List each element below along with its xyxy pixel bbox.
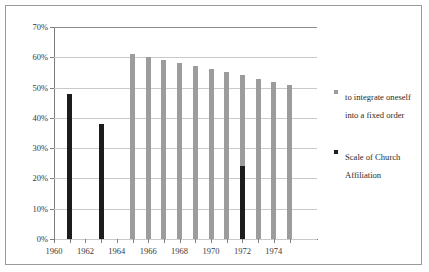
chart-figure: 0%10%20%30%40%50%60%70% 1960196219641966… [5, 5, 422, 265]
bar [146, 57, 151, 239]
legend-swatch-icon [334, 150, 338, 154]
bar [67, 94, 72, 239]
gridline [54, 209, 317, 210]
gridline [54, 27, 317, 28]
legend-entry[interactable]: Scale of Church Affiliation [334, 146, 422, 182]
x-tick-mark [70, 239, 71, 243]
x-axis-label: 1968 [165, 246, 195, 256]
x-tick-mark [227, 239, 228, 243]
x-tick-mark [242, 239, 243, 243]
bar [209, 69, 214, 239]
x-tick-mark [101, 239, 102, 243]
x-tick-mark [180, 239, 181, 243]
bar [161, 60, 166, 239]
bar [224, 72, 229, 239]
bar [130, 54, 135, 239]
bar [193, 66, 198, 239]
bar [256, 79, 261, 240]
bar [240, 166, 245, 239]
x-axis-label: 1970 [196, 246, 226, 256]
x-tick-mark [148, 239, 149, 243]
x-axis-label: 1964 [102, 246, 132, 256]
x-tick-mark [211, 239, 212, 243]
gridline [54, 88, 317, 89]
legend-label: to integrate oneself into a fixed order [345, 92, 411, 120]
gridline [54, 239, 317, 240]
y-axis-label: 20% [8, 174, 48, 182]
legend-entry[interactable]: to integrate oneself into a fixed order [334, 86, 422, 122]
y-axis-label: 50% [8, 84, 48, 92]
bar [99, 124, 104, 239]
x-tick-mark [274, 239, 275, 243]
plot-area [54, 27, 317, 239]
x-tick-mark [164, 239, 165, 243]
x-axis-label: 1972 [227, 246, 257, 256]
gridline [54, 148, 317, 149]
y-axis-label: 60% [8, 53, 48, 61]
x-tick-mark [258, 239, 259, 243]
y-axis-label: 30% [8, 144, 48, 152]
x-tick-mark [290, 239, 291, 243]
legend-swatch-icon [334, 90, 338, 94]
bar [177, 63, 182, 239]
bar [271, 82, 276, 239]
x-axis-label: 1966 [133, 246, 163, 256]
y-axis-label: 10% [8, 205, 48, 213]
y-axis-label: 0% [8, 235, 48, 243]
chart-legend: to integrate oneself into a fixed orderS… [334, 86, 422, 206]
y-axis-label: 40% [8, 114, 48, 122]
gridline [54, 118, 317, 119]
x-axis-label: 1974 [259, 246, 289, 256]
gridline [54, 178, 317, 179]
x-tick-mark [85, 239, 86, 243]
gridline [54, 57, 317, 58]
x-tick-mark [117, 239, 118, 243]
x-tick-mark [133, 239, 134, 243]
x-axis-label: 1962 [70, 246, 100, 256]
x-tick-mark [54, 239, 55, 243]
legend-label: Scale of Church Affiliation [345, 152, 400, 180]
x-tick-mark [195, 239, 196, 243]
x-axis-label: 1960 [39, 246, 69, 256]
bar [287, 85, 292, 239]
y-axis-label: 70% [8, 23, 48, 31]
